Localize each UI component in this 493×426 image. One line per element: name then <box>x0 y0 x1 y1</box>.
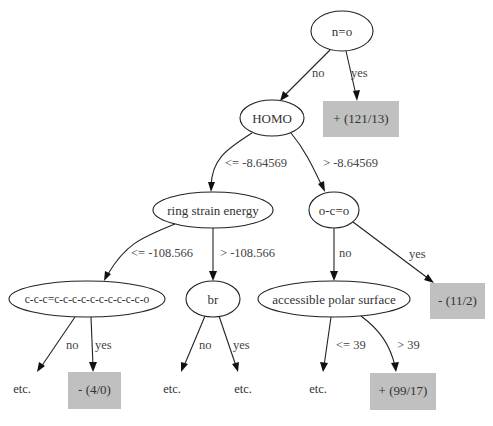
edge-homo-le: <= -8.64569 <box>208 133 287 192</box>
edge-label-root-yes: yes <box>351 66 368 80</box>
etc-label-2: etc. <box>163 382 181 396</box>
edge-root-no: no <box>280 50 330 101</box>
leaf-etc-1: etc. <box>13 382 31 396</box>
edge-br-no: no <box>181 316 212 372</box>
node-label-chain: c-c-c=c-c-c-c-c-c-c-c-c-c-o <box>25 293 150 305</box>
edge-label-ring-le: <= -108.566 <box>131 246 193 260</box>
leaf-etc-2: etc. <box>163 382 181 396</box>
leaf-label-4-0: - (4/0) <box>78 382 111 397</box>
leaf-etc-3: etc. <box>234 382 252 396</box>
edge-label-chain-no: no <box>66 338 79 352</box>
node-oco: o-c=o <box>309 192 359 228</box>
node-label-homo: HOMO <box>252 111 292 126</box>
edge-polar-le: <= 39 <box>320 317 366 372</box>
edge-label-ring-gt: > -108.566 <box>220 246 275 260</box>
node-root: n=o <box>311 11 373 51</box>
etc-label-3: etc. <box>234 382 252 396</box>
edge-oco-yes: yes <box>353 222 434 283</box>
leaf-11-2: - (11/2) <box>430 283 485 319</box>
node-label-accessible-polar-surface: accessible polar surface <box>272 292 396 307</box>
leaf-99-17: + (99/17) <box>370 373 436 410</box>
edge-label-oco-yes: yes <box>409 247 426 261</box>
decision-tree-diagram: no yes <= -8.64569 > -8.64569 <= -108.56… <box>0 0 493 426</box>
edge-ring-le: <= -108.566 <box>104 224 193 281</box>
leaf-121-13: + (121/13) <box>323 101 399 137</box>
edge-root-yes: yes <box>346 51 368 101</box>
leaf-label-99-17: + (99/17) <box>379 383 428 398</box>
etc-label-4: etc. <box>309 382 327 396</box>
edge-label-homo-gt: > -8.64569 <box>323 156 378 170</box>
leaf-label-11-2: - (11/2) <box>438 293 477 308</box>
node-homo: HOMO <box>240 100 304 136</box>
node-ring-strain-energy: ring strain energy <box>153 192 273 228</box>
edge-homo-gt: > -8.64569 <box>291 133 378 192</box>
edge-label-homo-le: <= -8.64569 <box>225 156 287 170</box>
node-label-root: n=o <box>332 24 352 39</box>
etc-label-1: etc. <box>13 382 31 396</box>
edge-label-chain-yes: yes <box>95 338 112 352</box>
edge-oco-no: no <box>330 228 352 281</box>
node-label-ring-strain-energy: ring strain energy <box>167 203 259 218</box>
edge-ring-gt: > -108.566 <box>209 228 275 281</box>
edge-label-br-yes: yes <box>233 338 250 352</box>
edge-label-polar-le: <= 39 <box>336 338 366 352</box>
edge-br-yes: yes <box>219 316 250 372</box>
node-label-oco: o-c=o <box>319 203 349 218</box>
leaf-etc-4: etc. <box>309 382 327 396</box>
node-accessible-polar-surface: accessible polar surface <box>258 281 410 317</box>
edge-label-br-no: no <box>199 338 212 352</box>
edge-polar-gt: > 39 <box>361 316 420 372</box>
node-chain: c-c-c=c-c-c-c-c-c-c-c-c-c-o <box>9 281 165 317</box>
leaf-label-121-13: + (121/13) <box>333 111 388 126</box>
node-label-br: br <box>208 292 220 307</box>
edge-label-root-no: no <box>312 66 325 80</box>
leaf-4-0: - (4/0) <box>68 372 121 409</box>
edge-chain-no: no <box>37 317 79 372</box>
edge-label-polar-gt: > 39 <box>397 338 420 352</box>
edge-label-oco-no: no <box>339 246 352 260</box>
edge-chain-yes: yes <box>89 317 112 372</box>
node-br: br <box>186 281 240 317</box>
